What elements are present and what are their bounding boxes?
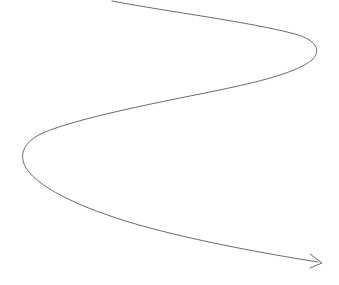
spiral-arrow-figure (0, 0, 339, 285)
canvas-background (0, 0, 339, 285)
figure-canvas (0, 0, 339, 285)
